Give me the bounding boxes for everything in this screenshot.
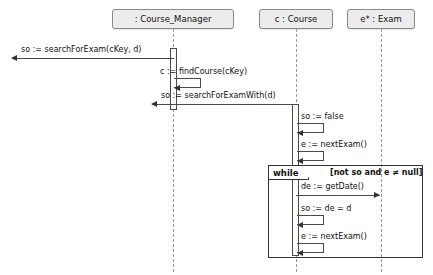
message-label-m7: so := de = d — [301, 205, 351, 213]
fragment-guard-label: [not so and e ≠ null] — [330, 169, 422, 177]
arrowhead-m4 — [297, 130, 303, 136]
lifeline-head-exam[interactable]: e* : Exam — [347, 9, 415, 29]
lifeline-head-course-manager[interactable]: : Course_Manager — [112, 9, 234, 29]
message-line-m6 — [296, 195, 380, 196]
fragment-operator-tab: while — [269, 166, 309, 180]
message-line-m1 — [12, 58, 174, 59]
lifeline-head-course[interactable]: c : Course — [259, 9, 333, 29]
message-label-m3: so := searchForExamWith(d) — [161, 92, 276, 100]
fragment-operator-label: while — [273, 168, 299, 178]
message-label-m6: de := getDate() — [301, 183, 364, 191]
lifeline-label-course-manager: : Course_Manager — [135, 15, 212, 24]
arrowhead-m8 — [297, 250, 303, 256]
message-label-m5: e := nextExam() — [301, 141, 367, 149]
arrowhead-m5 — [297, 158, 303, 164]
arrowhead-m6 — [374, 192, 380, 198]
message-label-m4: so := false — [301, 113, 344, 121]
message-label-m1: so := searchForExam(cKey, d) — [21, 46, 141, 54]
arrowhead-m3 — [151, 101, 157, 107]
message-label-m8: e := nextExam() — [301, 233, 367, 241]
arrowhead-m7 — [297, 222, 303, 228]
message-line-m3 — [152, 104, 296, 105]
message-label-m2: c := findCourse(cKey) — [160, 68, 247, 76]
lifeline-label-exam: e* : Exam — [360, 15, 402, 24]
arrowhead-m1 — [11, 55, 17, 61]
sequence-diagram-canvas: : Course_Manager c : Course e* : Exam so… — [0, 0, 433, 275]
lifeline-label-course: c : Course — [275, 15, 318, 24]
